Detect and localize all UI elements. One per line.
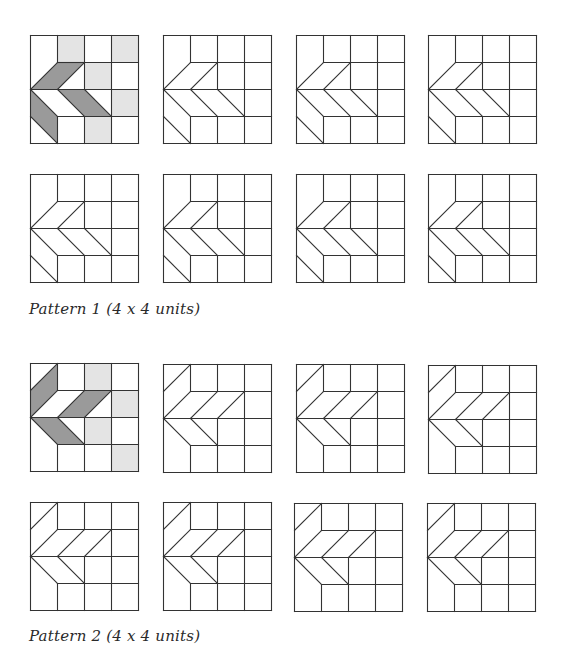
grid-line: [164, 419, 191, 446]
grid-line: [164, 63, 191, 90]
grid-line: [351, 90, 378, 117]
grid-line: [297, 229, 324, 256]
grid-svg: [296, 174, 405, 283]
grid-line: [297, 256, 324, 283]
grid-svg: [30, 35, 139, 144]
grid-svg: [30, 502, 139, 611]
grid-svg: [294, 503, 403, 612]
grid-line: [31, 530, 58, 557]
grid-line: [31, 256, 58, 283]
grid-svg: [163, 364, 272, 473]
grid-line: [429, 117, 456, 144]
grid-line: [164, 256, 191, 283]
dark-parallelogram: [58, 391, 112, 418]
grid-svg: [427, 503, 536, 612]
grid-line: [428, 531, 455, 558]
grid-line: [297, 117, 324, 144]
pattern2-grid-r1-c4: [428, 365, 537, 474]
grid-line: [351, 392, 378, 419]
grid-line: [191, 530, 218, 557]
grid-line: [164, 117, 191, 144]
pattern2-caption: Pattern 2 (4 x 4 units): [29, 627, 200, 645]
pattern2-grid-r1-c3: [296, 364, 405, 473]
grid-line: [295, 504, 322, 531]
grid-svg: [296, 35, 405, 144]
grid-line: [164, 202, 191, 229]
pattern1-grid-r2-c1: [30, 174, 139, 283]
grid-line: [191, 392, 218, 419]
light-square: [112, 391, 139, 418]
grid-line: [324, 90, 351, 117]
dark-parallelogram: [31, 90, 58, 144]
grid-line: [58, 557, 85, 584]
grid-line: [31, 503, 58, 530]
grid-line: [428, 558, 455, 585]
light-square: [58, 36, 85, 63]
grid-line: [297, 392, 324, 419]
grid-line: [31, 229, 58, 256]
grid-line: [164, 90, 191, 117]
grid-line: [297, 202, 324, 229]
grid-line: [31, 202, 58, 229]
grid-line: [164, 229, 191, 256]
grid-line: [483, 393, 510, 420]
pattern1-grid-r1-c1: [30, 35, 139, 144]
pattern2-grid-r2-c1: [30, 502, 139, 611]
grid-line: [164, 530, 191, 557]
grid-line: [218, 90, 245, 117]
light-square: [85, 364, 112, 391]
dark-parallelogram: [31, 418, 85, 445]
light-square: [112, 445, 139, 472]
grid-line: [455, 531, 482, 558]
grid-line: [324, 392, 351, 419]
grid-line: [191, 90, 218, 117]
grid-svg: [428, 365, 537, 474]
light-square: [85, 418, 112, 445]
grid-line: [349, 531, 376, 558]
grid-line: [322, 558, 349, 585]
grid-line: [58, 229, 85, 256]
pattern1-grid-r1-c3: [296, 35, 405, 144]
grid-svg: [163, 174, 272, 283]
dark-parallelogram: [58, 90, 112, 117]
grid-line: [483, 90, 510, 117]
grid-line: [85, 530, 112, 557]
grid-line: [191, 63, 218, 90]
pattern1-grid-r2-c4: [428, 174, 537, 283]
grid-line: [351, 229, 378, 256]
grid-line: [322, 531, 349, 558]
grid-line: [191, 557, 218, 584]
grid-line: [428, 504, 455, 531]
grid-line: [297, 63, 324, 90]
grid-line: [324, 229, 351, 256]
grid-line: [297, 365, 324, 392]
grid-line: [297, 90, 324, 117]
grid-line: [297, 419, 324, 446]
pattern2-grid-r2-c3: [294, 503, 403, 612]
grid-svg: [296, 364, 405, 473]
grid-line: [429, 393, 456, 420]
grid-line: [164, 365, 191, 392]
grid-svg: [428, 35, 537, 144]
grid-line: [456, 90, 483, 117]
grid-line: [295, 558, 322, 585]
grid-line: [456, 393, 483, 420]
grid-line: [324, 63, 351, 90]
pattern1-caption: Pattern 1 (4 x 4 units): [29, 300, 200, 318]
grid-svg: [163, 502, 272, 611]
dark-parallelogram: [31, 364, 58, 418]
grid-line: [85, 229, 112, 256]
grid-line: [191, 202, 218, 229]
pattern2-grid-r1-c2: [163, 364, 272, 473]
grid-line: [429, 366, 456, 393]
grid-line: [58, 202, 85, 229]
pattern1-grid-r2-c3: [296, 174, 405, 283]
grid-line: [218, 392, 245, 419]
light-square: [85, 117, 112, 144]
grid-svg: [30, 363, 139, 472]
grid-line: [191, 419, 218, 446]
grid-line: [456, 202, 483, 229]
grid-line: [324, 202, 351, 229]
grid-svg: [428, 174, 537, 283]
grid-line: [324, 419, 351, 446]
